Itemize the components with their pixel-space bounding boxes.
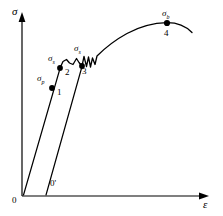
point-4-number-label: 4 [164, 29, 169, 38]
point-4-sigma-subscript: b [166, 14, 169, 20]
y-axis-arrow-icon [19, 12, 26, 22]
offset-origin-label: 0' [50, 179, 56, 188]
x-axis-label: ε [203, 199, 207, 210]
point-4-stress-label: σb [162, 9, 169, 18]
point-2-sigma-subscript: s [52, 59, 54, 65]
point-2-number-label: 2 [65, 68, 70, 77]
stress-strain-chart: σ ε 0 0' σp 1 σs 2 σs 3 σb 4 [0, 0, 223, 216]
point-1-sigma-subscript: p [41, 79, 44, 85]
origin-label: 0 [12, 196, 17, 205]
point-3-stress-label: σs [74, 44, 81, 53]
point-3-number-label: 3 [82, 67, 87, 76]
point-2-stress-label: σs [48, 54, 55, 63]
point-1-stress-label: σp [37, 74, 44, 83]
chart-canvas [0, 0, 223, 216]
point-3-sigma-subscript: s [78, 49, 80, 55]
y-axis-label: σ [12, 6, 17, 17]
marker-point-4 [164, 20, 170, 26]
marker-point-2 [57, 65, 63, 71]
marker-point-1 [49, 85, 55, 91]
point-1-number-label: 1 [57, 88, 62, 97]
